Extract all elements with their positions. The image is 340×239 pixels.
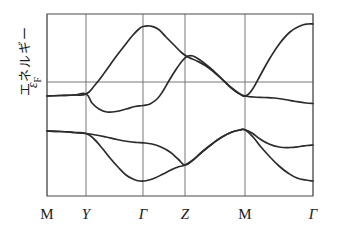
band-curve-conduction-band-2: [47, 55, 313, 112]
fermi-epsilon: ε: [25, 82, 40, 88]
band-curve-conduction-band-1: [47, 24, 313, 96]
plot-area: [0, 0, 340, 239]
band-curves: [47, 24, 313, 181]
band-curve-valence-band-2: [47, 129, 313, 181]
gridlines: [47, 14, 313, 196]
fermi-level-label: εF: [25, 77, 43, 88]
x-tick-label-0-M: M: [27, 206, 67, 223]
x-tick-label-4-M: M: [225, 206, 265, 223]
axis-frame: [47, 14, 313, 196]
x-tick-label-1-Y: Y: [66, 206, 106, 223]
x-tick-label-2-Γ: Γ: [123, 206, 163, 223]
x-tick-label-3-Z: Z: [165, 206, 205, 223]
x-tick-label-5-Γ: Γ: [293, 206, 333, 223]
fermi-subscript: F: [32, 77, 43, 83]
band-structure-figure: エネルギー εF MYΓZMΓ: [0, 0, 340, 239]
